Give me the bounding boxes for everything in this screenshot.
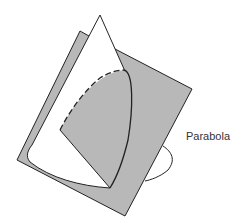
parabola-label: Parabola <box>186 130 230 142</box>
parabola-diagram <box>0 0 247 224</box>
